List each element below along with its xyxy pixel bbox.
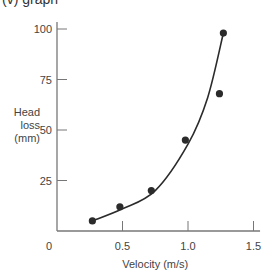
data-point [148, 187, 155, 194]
y-axis-title: Head [14, 106, 40, 118]
chart: 25507510000.51.01.5Velocity (m/s)Headlos… [0, 0, 271, 270]
y-tick-label: 75 [40, 74, 52, 86]
fitted-curve [92, 33, 223, 221]
x-axis-title: Velocity (m/s) [122, 258, 188, 270]
data-point [216, 90, 223, 97]
axis-labels: 25507510000.51.01.5Velocity (m/s)Headlos… [14, 23, 261, 270]
x-tick-label: 1.0 [180, 240, 195, 252]
data-point [89, 217, 96, 224]
x-tick-label: 1.5 [246, 240, 261, 252]
x-tick-label: 0 [46, 240, 52, 252]
data-point [182, 137, 189, 144]
data-points [89, 29, 227, 224]
axes [57, 22, 260, 231]
y-axis-title: loss [20, 119, 40, 131]
fitted-curve-path [92, 33, 223, 221]
y-axis-title: (mm) [14, 132, 40, 144]
y-tick-label: 50 [40, 124, 52, 136]
y-tick-label: 100 [34, 23, 52, 35]
y-tick-label: 25 [40, 175, 52, 187]
x-tick-label: 0.5 [115, 240, 130, 252]
data-point [220, 29, 227, 36]
data-point [116, 203, 123, 210]
